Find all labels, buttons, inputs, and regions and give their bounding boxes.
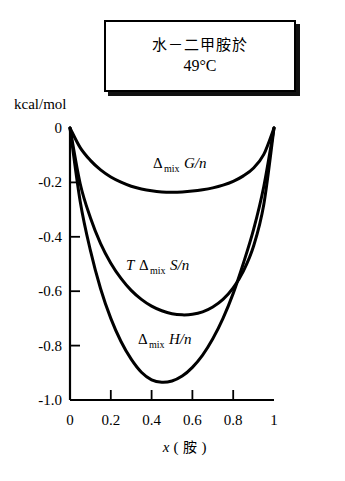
y-tick-label: -1.0 [38,392,62,408]
gibbs-main: G/n [184,155,207,171]
title-box: 水－二甲胺於 49°C [104,20,296,92]
x-tick-label: 0 [66,412,74,428]
curve-label-entropy: T Δ mix S/n [126,257,189,276]
y-tick-label: -0.6 [38,283,62,299]
y-tick-marks [70,182,80,345]
x-axis-title-paren-open: ( [174,439,179,456]
x-tick-label: 1 [270,412,278,428]
y-tick-label: -0.8 [38,338,62,354]
title-line-2: 49°C [183,55,216,77]
curve-label-enthalpy: Δ mix H/n [138,331,192,350]
gibbs-delta: Δ [153,155,163,171]
x-axis-title-variable: x [162,439,170,455]
chart-page: 水－二甲胺於 49°C kcal/mol [0,0,345,481]
enthalpy-subscript: mix [149,339,165,350]
y-tick-labels: 0 -0.2 -0.4 -0.6 -0.8 -1.0 [38,120,62,408]
y-tick-label: -0.4 [38,229,62,245]
x-tick-marks [111,390,233,400]
x-tick-label: 0.8 [224,412,243,428]
entropy-delta: Δ [139,257,149,273]
y-tick-label: 0 [55,120,63,136]
gibbs-subscript: mix [164,163,180,174]
y-tick-label: -0.2 [38,174,62,190]
enthalpy-delta: Δ [138,331,148,347]
title-line-1: 水－二甲胺於 [152,35,248,55]
x-tick-labels: 0 0.2 0.4 0.6 0.8 1 [66,412,278,428]
x-tick-label: 0.4 [142,412,161,428]
entropy-main: S/n [170,257,189,273]
enthalpy-main: H/n [168,331,192,347]
x-axis-title-species: 胺 [183,439,197,455]
entropy-temperature: T [126,257,136,273]
x-axis-title: x ( 胺 ) [162,439,207,456]
x-tick-label: 0.2 [101,412,120,428]
entropy-subscript: mix [150,265,166,276]
curve-label-gibbs: Δ mix G/n [153,155,207,174]
x-axis-title-paren-close: ) [202,439,207,456]
curve-gibbs [70,128,274,192]
x-tick-label: 0.6 [183,412,202,428]
